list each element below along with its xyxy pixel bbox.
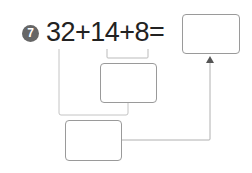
partial-sum-box[interactable]	[100, 63, 157, 103]
problem-number-badge: 7	[22, 25, 39, 42]
equation-text: 32+14+8=	[46, 17, 164, 47]
total-sum-box[interactable]	[65, 120, 122, 161]
arrow-up-icon	[206, 56, 214, 63]
answer-box[interactable]	[182, 14, 240, 54]
